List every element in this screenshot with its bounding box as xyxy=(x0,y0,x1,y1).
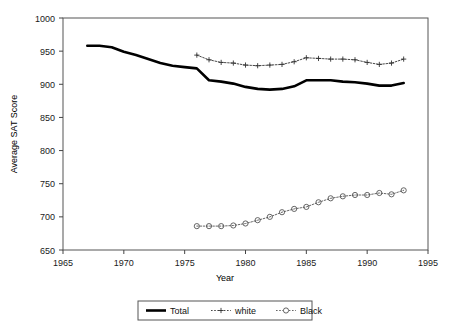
data-point-marker xyxy=(243,62,248,67)
data-point-marker xyxy=(328,56,333,61)
data-point-marker xyxy=(194,53,199,58)
y-axis-tick-label-7: 1000 xyxy=(35,14,55,24)
data-point-marker xyxy=(219,60,224,65)
data-point-marker xyxy=(206,57,211,62)
legend-label-white: white xyxy=(234,306,256,316)
x-axis-title: Year xyxy=(216,273,234,283)
series-line-white xyxy=(197,55,404,66)
legend-swatch-marker xyxy=(283,308,288,313)
x-axis-tick-label-6: 1995 xyxy=(418,258,438,268)
data-point-marker xyxy=(255,63,260,68)
x-axis-tick-label-4: 1985 xyxy=(296,258,316,268)
data-point-marker xyxy=(377,62,382,67)
series-total xyxy=(87,46,403,90)
x-axis-tick-label-3: 1980 xyxy=(235,258,255,268)
legend-label-total: Total xyxy=(170,306,189,316)
legend-label-black: Black xyxy=(300,306,323,316)
plot-frame xyxy=(63,18,428,250)
y-axis-tick-label-4: 850 xyxy=(40,113,55,123)
x-axis-tick-label-2: 1975 xyxy=(175,258,195,268)
y-axis-tick-label-2: 750 xyxy=(40,179,55,189)
data-point-marker xyxy=(389,60,394,65)
data-point-marker xyxy=(340,56,345,61)
y-axis-title: Average SAT Score xyxy=(9,95,19,174)
data-point-marker xyxy=(401,56,406,61)
y-axis-tick-label-5: 900 xyxy=(40,80,55,90)
data-point-marker xyxy=(316,56,321,61)
chart-figure: 6507007508008509009501000196519701975198… xyxy=(0,0,450,333)
data-point-marker xyxy=(267,62,272,67)
y-axis-tick-label-0: 650 xyxy=(40,246,55,256)
y-axis-tick-label-1: 700 xyxy=(40,212,55,222)
series-black xyxy=(194,188,406,229)
x-axis-tick-label-0: 1965 xyxy=(53,258,73,268)
data-point-marker xyxy=(365,60,370,65)
data-point-marker xyxy=(292,59,297,64)
series-white xyxy=(194,53,406,69)
sat-score-line-chart: 6507007508008509009501000196519701975198… xyxy=(0,0,450,333)
series-line-black xyxy=(197,190,404,226)
data-point-marker xyxy=(231,60,236,65)
data-point-marker xyxy=(352,57,357,62)
data-point-marker xyxy=(279,62,284,67)
y-axis-tick-label-3: 800 xyxy=(40,146,55,156)
x-axis-tick-label-1: 1970 xyxy=(114,258,134,268)
y-axis-tick-label-6: 950 xyxy=(40,47,55,57)
x-axis-tick-label-5: 1990 xyxy=(357,258,377,268)
data-point-marker xyxy=(304,55,309,60)
series-line-total xyxy=(87,46,403,90)
